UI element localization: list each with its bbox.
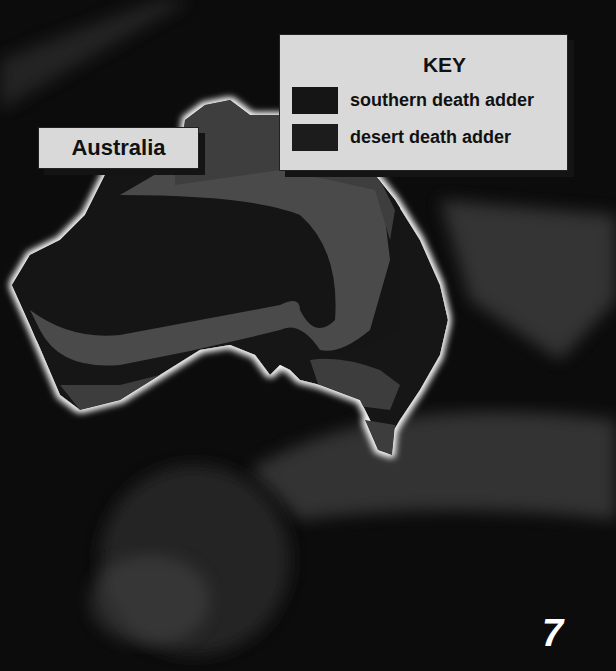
tasmania-range [365,420,395,455]
map-key: KEY southern death adder desert death ad… [279,34,568,171]
key-label-southern: southern death adder [350,90,534,111]
key-entry-southern: southern death adder [292,87,557,114]
southern-death-adder-swatch [292,87,338,114]
key-label-desert: desert death adder [350,127,511,148]
page-number: 7 [542,612,563,655]
key-title: KEY [292,53,557,77]
desert-death-adder-swatch [292,124,338,151]
australia-label: Australia [38,127,199,169]
key-entry-desert: desert death adder [292,124,557,151]
